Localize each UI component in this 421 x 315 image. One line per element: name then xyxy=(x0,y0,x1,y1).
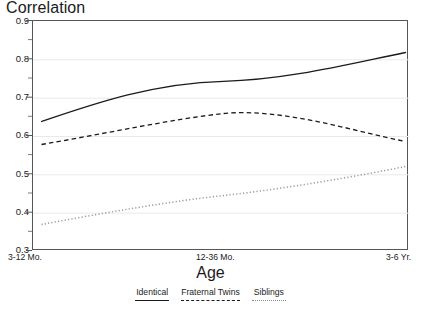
series-line-fraternal-twins xyxy=(42,113,406,145)
y-tick-label: 0.7 xyxy=(3,92,29,102)
legend-item-siblings: Siblings xyxy=(252,288,286,303)
x-tick-label-third: 3-6 Yr. xyxy=(386,253,411,262)
chart-legend: Identical Fraternal Twins Siblings xyxy=(0,288,421,303)
x-axis-title: Age xyxy=(0,264,421,282)
y-tick-label: 0.9 xyxy=(3,16,29,26)
y-tick-label: 0.5 xyxy=(3,169,29,179)
legend-swatch-dashed xyxy=(181,299,240,303)
x-tick-label-second: 12-36 Mo. xyxy=(196,253,235,262)
legend-label-fraternal-twins: Fraternal Twins xyxy=(181,288,240,297)
series-line-identical xyxy=(42,53,406,122)
plot-series-canvas xyxy=(33,21,409,251)
legend-swatch-dotted xyxy=(252,299,286,303)
x-tick-label-first: 3-12 Mo. xyxy=(8,253,42,262)
legend-label-siblings: Siblings xyxy=(254,288,284,297)
y-tick-label: 0.4 xyxy=(3,207,29,217)
plot-area xyxy=(32,20,408,250)
legend-label-identical: Identical xyxy=(136,288,168,297)
legend-swatch-solid xyxy=(135,299,169,303)
legend-item-identical: Identical xyxy=(135,288,169,303)
legend-item-fraternal-twins: Fraternal Twins xyxy=(181,288,240,303)
y-tick-label: 0.8 xyxy=(3,54,29,64)
y-tick-label: 0.6 xyxy=(3,130,29,140)
correlation-line-chart: Correlation 0.9 0.8 0.7 0.6 0.5 0.4 0.3 xyxy=(0,0,421,315)
